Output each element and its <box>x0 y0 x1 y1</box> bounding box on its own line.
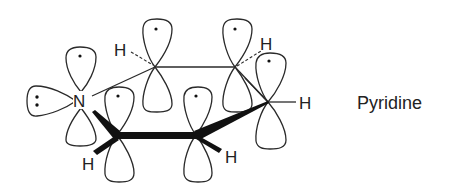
h-c6-label: H <box>82 155 94 174</box>
n-lone-pair-lobe <box>27 86 76 116</box>
n-upper-lobe <box>66 47 96 92</box>
nitrogen-label: N <box>73 92 85 111</box>
nitrogen-orbitals: N <box>27 47 96 146</box>
c5-electron-dot <box>194 94 197 97</box>
c2-electron-dot <box>154 27 157 30</box>
molecule-label: Pyridine <box>357 93 422 113</box>
lone-pair-dot-2 <box>35 103 38 106</box>
h-c3-label: H <box>260 35 272 54</box>
c2-upper-lobe <box>143 19 172 67</box>
bond-c6-c5 <box>115 132 198 139</box>
n-lower-lobe <box>66 108 96 146</box>
c2-p-orbital <box>143 19 172 112</box>
h-c5-label: H <box>225 148 237 167</box>
n-electron-dot <box>78 54 81 57</box>
h-c4-label: H <box>299 94 311 113</box>
c3-lower-lobe <box>223 67 252 112</box>
c2-lower-lobe <box>143 67 172 112</box>
c3-electron-dot <box>233 27 236 30</box>
lone-pair-dot-1 <box>35 95 38 98</box>
c6-electron-dot <box>116 94 119 97</box>
h-c2-label: H <box>114 41 126 60</box>
pyridine-orbital-diagram: H H H N H H Pyridine <box>0 0 456 191</box>
c4-electron-dot <box>267 59 270 62</box>
c4-p-orbital <box>256 53 286 149</box>
c4-lower-lobe <box>256 102 286 149</box>
